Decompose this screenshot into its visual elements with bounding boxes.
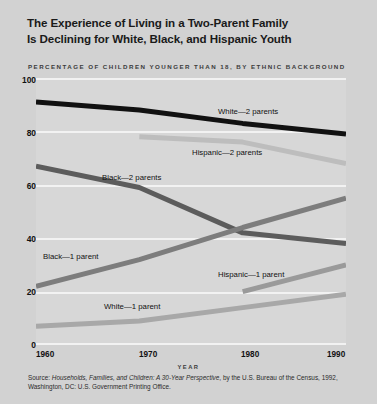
x-axis-title: YEAR bbox=[0, 364, 377, 370]
plot-area: White—2 parents Hispanic—2 parents Black… bbox=[36, 78, 346, 345]
source-note: Source: Households, Families, and Childr… bbox=[28, 373, 348, 391]
source-prefix: Source: bbox=[28, 374, 52, 381]
page-title: The Experience of Living in a Two-Parent… bbox=[27, 15, 357, 46]
series-line-black-2-parents bbox=[36, 166, 346, 243]
series-label-white-2-parents: White—2 parents bbox=[218, 107, 278, 116]
y-tick-20: 20 bbox=[0, 288, 36, 296]
x-tick-1980: 1980 bbox=[241, 350, 259, 359]
y-tick-60: 60 bbox=[0, 182, 36, 190]
series-line-white-2-parents bbox=[36, 102, 346, 134]
series-label-black-1-parent: Black—1 parent bbox=[43, 252, 98, 261]
title-line-1: The Experience of Living in a Two-Parent… bbox=[27, 15, 357, 31]
x-tick-1990: 1990 bbox=[327, 350, 345, 359]
chart-subtitle: PERCENTAGE OF CHILDREN YOUNGER THAN 18, … bbox=[28, 63, 346, 70]
series-label-hispanic-2-parents: Hispanic—2 parents bbox=[192, 148, 262, 157]
x-tick-1960: 1960 bbox=[36, 350, 54, 359]
series-line-white-1-parent bbox=[36, 294, 346, 326]
y-tick-80: 80 bbox=[0, 129, 36, 137]
chart-figure: The Experience of Living in a Two-Parent… bbox=[0, 0, 377, 404]
title-line-2: Is Declining for White, Black, and Hispa… bbox=[27, 31, 357, 47]
series-label-hispanic-1-parent: Hispanic—1 parent bbox=[218, 270, 284, 279]
y-tick-0: 0 bbox=[0, 341, 36, 349]
series-label-black-2-parents: Black—2 parents bbox=[102, 173, 161, 182]
x-tick-1970: 1970 bbox=[139, 350, 157, 359]
series-lines bbox=[36, 78, 346, 345]
y-tick-40: 40 bbox=[0, 235, 36, 243]
series-label-white-1-parent: White—1 parent bbox=[104, 302, 160, 311]
source-title: Households, Families, and Children: A 30… bbox=[52, 374, 220, 381]
y-tick-100: 100 bbox=[0, 76, 36, 84]
